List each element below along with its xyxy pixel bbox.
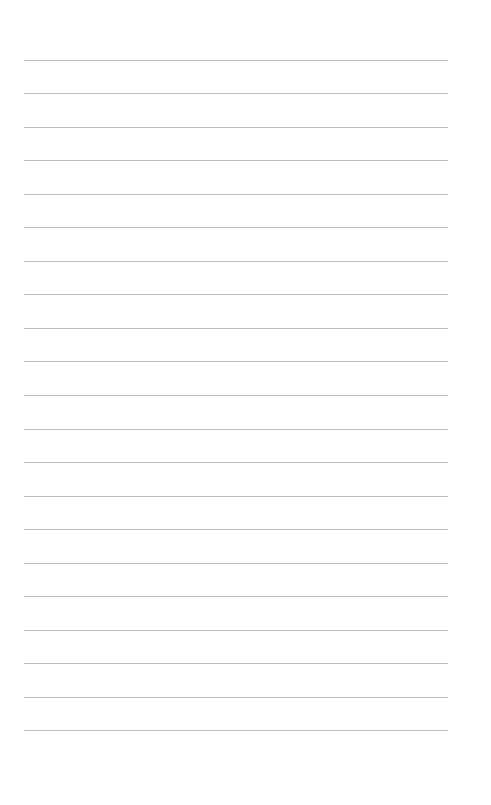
ruled-line xyxy=(24,563,448,564)
ruled-line xyxy=(24,395,448,396)
ruled-line xyxy=(24,261,448,262)
ruled-line xyxy=(24,93,448,94)
ruled-line xyxy=(24,127,448,128)
ruled-line xyxy=(24,328,448,329)
ruled-line xyxy=(24,194,448,195)
ruled-line xyxy=(24,596,448,597)
ruled-line xyxy=(24,361,448,362)
ruled-line xyxy=(24,630,448,631)
ruled-line xyxy=(24,730,448,731)
ruled-line xyxy=(24,294,448,295)
ruled-line xyxy=(24,663,448,664)
ruled-line xyxy=(24,429,448,430)
ruled-line xyxy=(24,60,448,61)
ruled-line xyxy=(24,496,448,497)
ruled-line xyxy=(24,697,448,698)
ruled-line xyxy=(24,462,448,463)
lined-paper-page xyxy=(0,0,491,805)
ruled-line xyxy=(24,529,448,530)
ruled-line xyxy=(24,160,448,161)
ruled-line xyxy=(24,227,448,228)
